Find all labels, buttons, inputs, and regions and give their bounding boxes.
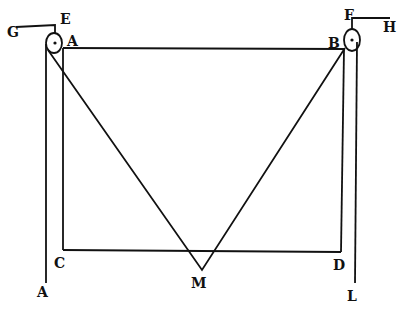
label-g: G <box>7 24 19 40</box>
right-hanging-string <box>355 42 357 283</box>
label-m: M <box>191 275 207 291</box>
label-e: E <box>60 11 71 27</box>
label-h: H <box>383 19 396 35</box>
label-l: L <box>347 288 357 304</box>
label-f: F <box>344 7 354 23</box>
rectangle-abdc <box>63 48 344 252</box>
left-pulley <box>16 25 62 53</box>
label-a-bottom: A <box>36 284 49 300</box>
label-c: C <box>54 255 65 271</box>
pulley-diagram: G E A B F H C D M A L <box>0 0 409 313</box>
label-a-top: A <box>66 33 79 49</box>
v-string-to-m <box>48 48 345 270</box>
label-d: D <box>333 257 345 273</box>
label-b: B <box>328 35 340 51</box>
